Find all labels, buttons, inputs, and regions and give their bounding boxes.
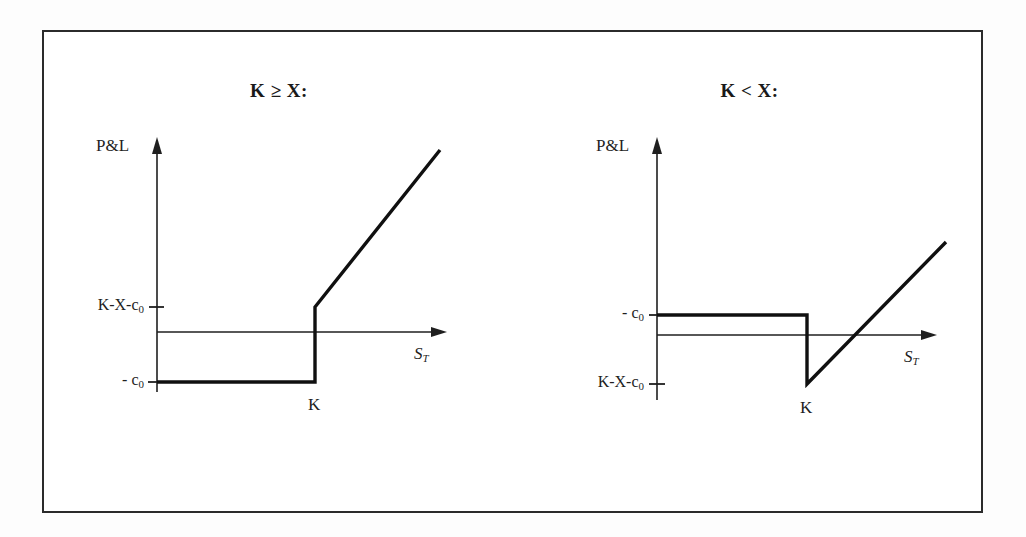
payoff-chart-right xyxy=(514,32,985,515)
tick-label-lower-right: K-X-c0 xyxy=(558,373,644,391)
x-axis-arrow-left xyxy=(431,327,447,337)
x-axis-arrow-right xyxy=(921,330,937,340)
figure-page: K ≥ X: P&L ST xyxy=(0,0,1026,537)
tick-label-lower-right-sub: 0 xyxy=(639,380,645,392)
y-axis-label-right: P&L xyxy=(596,136,629,156)
tick-label-upper-right: - c0 xyxy=(558,304,644,322)
tick-label-lower-left: - c0 xyxy=(58,371,144,389)
tick-label-upper-left-sub: 0 xyxy=(139,303,145,315)
y-axis-arrow-right xyxy=(652,137,662,154)
payoff-panel-k-ge-x: K ≥ X: P&L ST xyxy=(44,32,514,511)
tick-label-lower-left-sub: 0 xyxy=(139,378,145,390)
payoff-curve-right xyxy=(657,242,946,384)
x-axis-label-left-sub: T xyxy=(423,352,429,364)
tick-label-upper-left: K-X-c0 xyxy=(58,296,144,314)
strike-label-right: K xyxy=(800,398,812,418)
payoff-chart-left xyxy=(44,32,514,515)
x-axis-label-left: ST xyxy=(414,344,429,364)
tick-label-upper-right-sub: 0 xyxy=(639,311,645,323)
y-axis-arrow-left xyxy=(152,137,162,154)
figure-frame: K ≥ X: P&L ST xyxy=(42,30,983,513)
payoff-panel-k-lt-x: K < X: P&L ST xyxy=(514,32,985,511)
y-axis-label-left: P&L xyxy=(96,136,129,156)
x-axis-label-right-sub: T xyxy=(913,355,919,367)
strike-label-left: K xyxy=(308,395,320,415)
payoff-curve-left xyxy=(157,150,440,382)
x-axis-label-right: ST xyxy=(904,347,919,367)
